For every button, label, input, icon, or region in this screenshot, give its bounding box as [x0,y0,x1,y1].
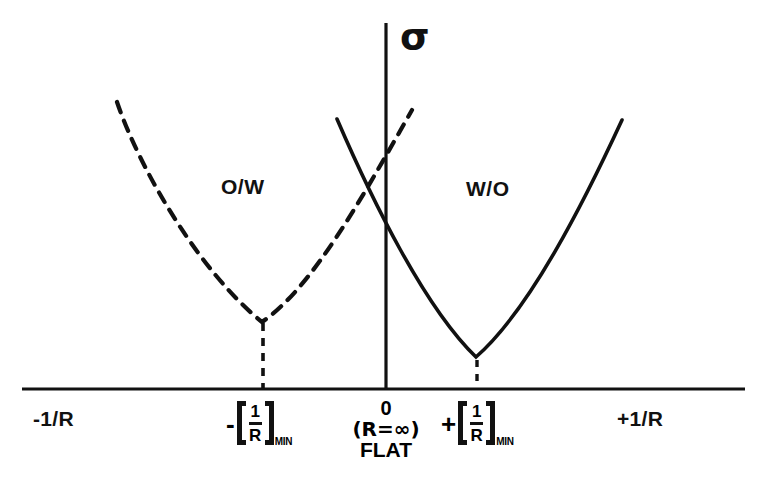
x-axis-right-label: +1/R [617,408,663,429]
right-bracket-icon [265,401,274,445]
subscript-min: MIN [496,436,513,447]
origin-state-label: FLAT [352,439,419,461]
fraction-denominator: R [249,426,261,444]
figure-root: σ O/W W/O -1/R +1/R 0 (R=∞) FLAT - 1 R M… [0,0,760,496]
origin-radius-note: (R=∞) [352,419,419,440]
y-axis-title-sigma: σ [400,17,430,55]
right-bracket-icon [486,401,495,445]
region-label-oil-in-water: O/W [221,176,265,197]
fraction-numerator: 1 [250,403,259,421]
x-axis-left-label: -1/R [33,408,74,429]
tick-label-negative-inverse-r-min: - 1 R MIN [226,401,291,445]
ow-curve-dashed [117,102,412,322]
fraction-bar [249,422,262,425]
region-label-water-in-oil: W/O [466,178,510,199]
subscript-min: MIN [275,436,292,447]
origin-value-label: 0 [352,398,419,419]
fraction-bar [470,422,483,425]
fraction-one-over-r: 1 R [246,401,265,445]
fraction-one-over-r: 1 R [467,401,486,445]
fraction-denominator: R [471,426,483,444]
left-bracket-icon [237,401,246,445]
minus-sign: - [226,411,235,437]
left-bracket-icon [458,401,467,445]
tick-label-positive-inverse-r-min: + 1 R MIN [441,401,513,445]
wo-curve-solid [337,119,622,357]
fraction-numerator: 1 [472,403,481,421]
plus-sign: + [441,411,456,437]
origin-label-group: 0 (R=∞) FLAT [352,398,419,461]
